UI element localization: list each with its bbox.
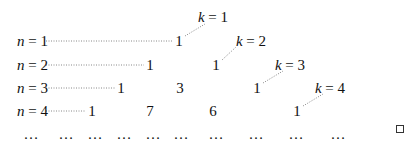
column-header-k4: k = 4 (315, 81, 345, 96)
ellipsis: … (59, 127, 74, 142)
column-header-k3: k = 3 (275, 58, 305, 73)
ellipsis: … (331, 127, 346, 142)
diag-leader-k3 (263, 71, 283, 83)
entry-n3-k3: 1 (253, 81, 261, 96)
diag-leader-k1 (185, 24, 205, 36)
ellipsis: … (146, 127, 161, 142)
ellipsis: … (289, 127, 304, 142)
entry-n4-k2: 7 (146, 104, 154, 119)
row-label-n3: n = 3 (17, 81, 48, 96)
column-header-k1: k = 1 (198, 10, 228, 25)
row-label-n4: n = 4 (17, 104, 48, 119)
entry-n4-k4: 1 (293, 104, 301, 119)
ellipsis: … (209, 127, 224, 142)
row-label-n2: n = 2 (17, 58, 48, 73)
end-of-proof-square-icon (396, 125, 404, 133)
ellipsis: … (24, 127, 39, 142)
entry-n2-k1: 1 (146, 58, 154, 73)
entry-n3-k2: 3 (176, 81, 184, 96)
entry-n3-k1: 1 (117, 81, 125, 96)
entry-n4-k1: 1 (88, 104, 96, 119)
row-label-n1: n = 1 (17, 34, 48, 49)
ellipsis: … (117, 127, 132, 142)
diag-leader-k4 (303, 94, 323, 106)
entry-n4-k3: 6 (209, 104, 217, 119)
column-header-k2: k = 2 (236, 34, 266, 49)
entry-n1-k1: 1 (175, 34, 183, 49)
diag-leader-k2 (222, 47, 236, 60)
entry-n2-k2: 1 (212, 58, 220, 73)
ellipsis: … (88, 127, 103, 142)
ellipsis: … (249, 127, 264, 142)
ellipsis: … (174, 127, 189, 142)
